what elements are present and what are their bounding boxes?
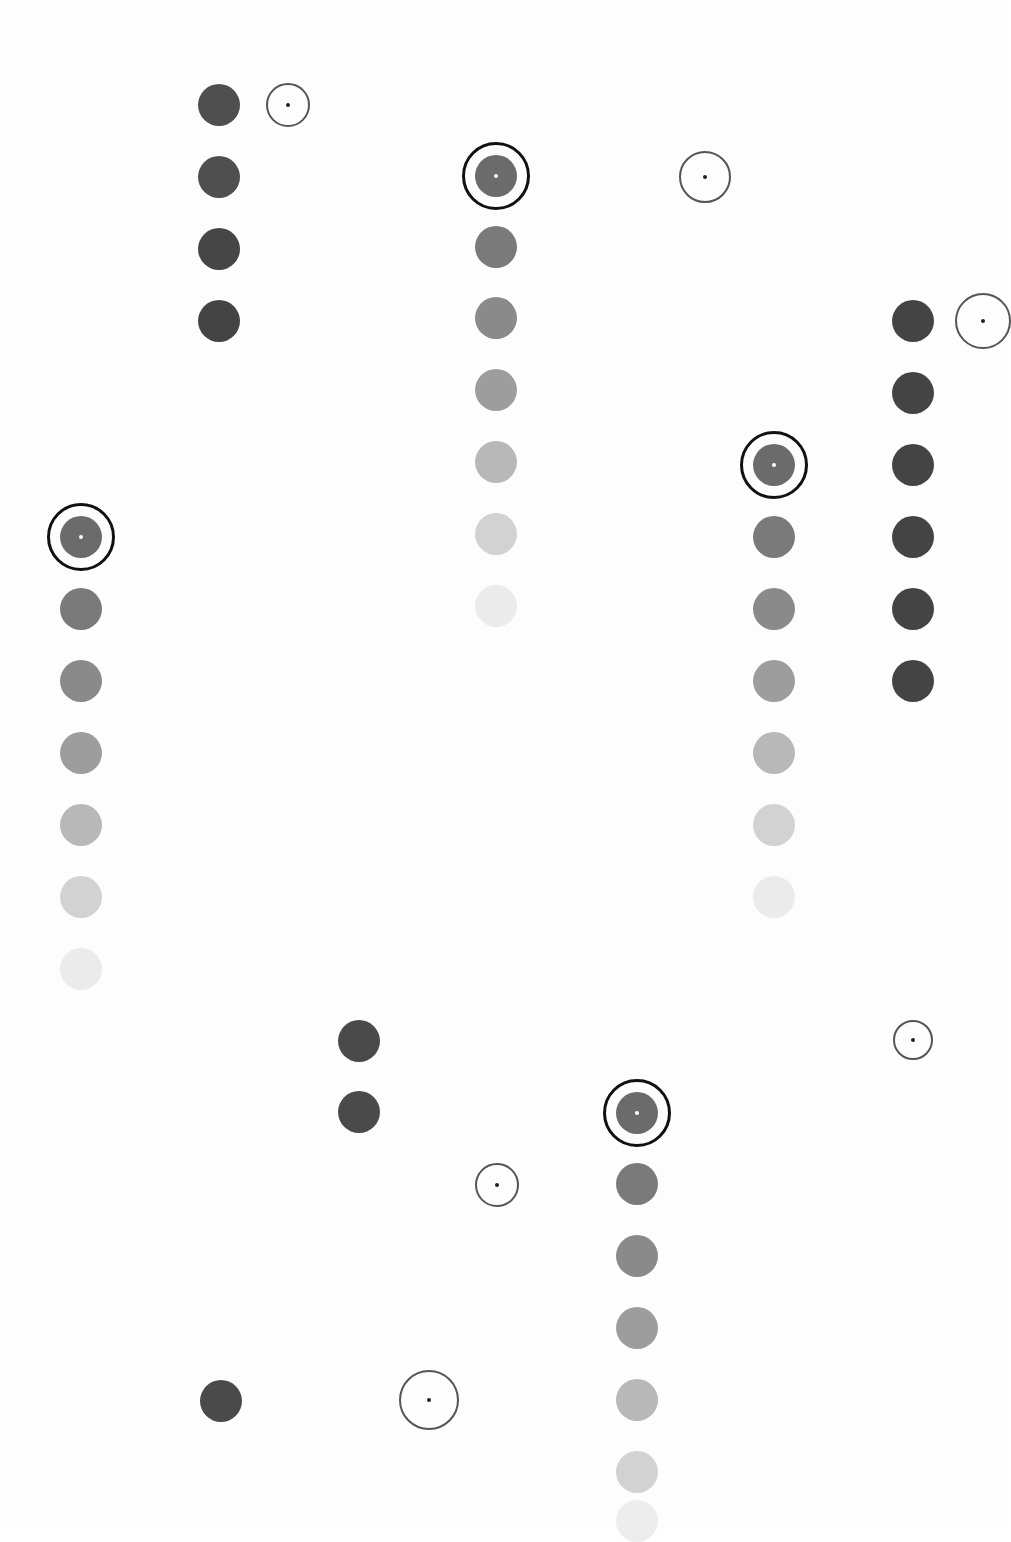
filled-dot <box>475 585 517 627</box>
filled-dot <box>475 297 517 339</box>
filled-dot <box>753 588 795 630</box>
filled-dot <box>198 84 240 126</box>
target-center-dot <box>494 174 498 178</box>
filled-dot <box>892 444 934 486</box>
filled-dot <box>60 732 102 774</box>
filled-dot <box>200 1380 242 1422</box>
filled-dot <box>475 441 517 483</box>
filled-dot <box>60 588 102 630</box>
filled-dot <box>475 369 517 411</box>
filled-dot <box>338 1091 380 1133</box>
filled-dot <box>60 660 102 702</box>
filled-dot <box>60 876 102 918</box>
filled-dot <box>475 226 517 268</box>
filled-dot <box>616 1235 658 1277</box>
filled-dot <box>198 228 240 270</box>
filled-dot <box>475 513 517 555</box>
filled-dot <box>753 732 795 774</box>
filled-dot <box>60 948 102 990</box>
filled-dot <box>338 1020 380 1062</box>
ring-center-dot <box>286 103 290 107</box>
target-center-dot <box>635 1111 639 1115</box>
filled-dot <box>616 1307 658 1349</box>
filled-dot <box>753 516 795 558</box>
ring-center-dot <box>495 1183 499 1187</box>
filled-dot <box>892 300 934 342</box>
filled-dot <box>892 516 934 558</box>
filled-dot <box>892 588 934 630</box>
filled-dot <box>892 660 934 702</box>
filled-dot <box>616 1500 658 1542</box>
filled-dot <box>616 1451 658 1493</box>
ring-center-dot <box>911 1038 915 1042</box>
target-center-dot <box>79 535 83 539</box>
ring-center-dot <box>981 319 985 323</box>
filled-dot <box>616 1379 658 1421</box>
filled-dot <box>753 876 795 918</box>
filled-dot <box>198 156 240 198</box>
filled-dot <box>892 372 934 414</box>
filled-dot <box>753 804 795 846</box>
filled-dot <box>198 300 240 342</box>
ring-center-dot <box>703 175 707 179</box>
filled-dot <box>753 660 795 702</box>
ring-center-dot <box>427 1398 431 1402</box>
filled-dot <box>616 1163 658 1205</box>
filled-dot <box>60 804 102 846</box>
target-center-dot <box>772 463 776 467</box>
